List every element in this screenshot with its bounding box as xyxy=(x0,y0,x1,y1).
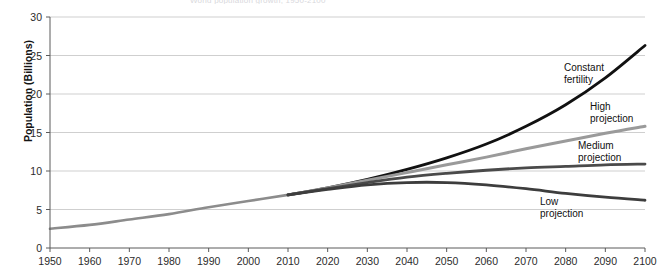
series-label-high-projection: High projection xyxy=(590,101,633,124)
y-tick-5: 5 xyxy=(12,205,42,216)
series-line-historical xyxy=(50,195,288,229)
y-tick-10: 10 xyxy=(12,166,42,177)
y-tick-30: 30 xyxy=(12,12,42,23)
x-tick-2100: 2100 xyxy=(622,256,668,267)
plot-canvas xyxy=(0,0,671,277)
y-tick-25: 25 xyxy=(12,51,42,62)
y-tick-marks xyxy=(46,17,50,248)
x-tick-marks xyxy=(50,248,645,252)
y-tick-20: 20 xyxy=(12,89,42,100)
chart-title: World population growth, 1950-2100 xyxy=(190,0,490,4)
series-label-constant-fertility: Constant fertility xyxy=(564,62,604,85)
series-line-medium-projection xyxy=(288,164,645,195)
population-projection-chart: World population growth, 1950-2100 Popul… xyxy=(0,0,671,277)
series-label-low-projection: Low projection xyxy=(540,196,583,219)
gridlines xyxy=(50,17,645,210)
series-label-medium-projection: Medium projection xyxy=(578,140,621,163)
y-tick-0: 0 xyxy=(12,243,42,254)
y-tick-15: 15 xyxy=(12,128,42,139)
